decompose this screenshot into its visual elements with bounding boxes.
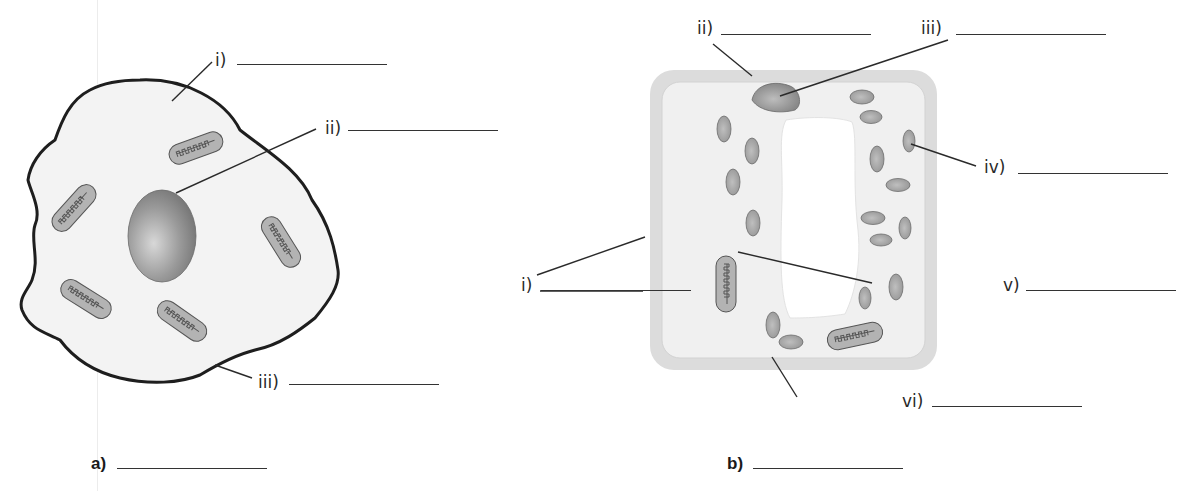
panel-a-caption: a) [91,455,106,472]
panel-a-label-iii: iii) [258,374,279,391]
panel-b-chloroplast-labelled [903,130,915,152]
panel-b-answer-blank-ii[interactable] [721,34,871,35]
panel-b-name-blank[interactable] [753,468,903,469]
panel-b-label-vi: vi) [902,393,923,410]
panel-b-label-iii: iii) [921,20,942,37]
panel-b-caption: b) [727,455,743,472]
panel-b-answer-blank-iv[interactable] [1018,173,1168,174]
panel-a-label-i: i) [215,52,226,69]
panel-a-label-ii: ii) [325,120,341,137]
panel-b-answer-blank-v[interactable] [1026,290,1176,291]
panel-a-cell [21,80,338,382]
panel-b-answer-blank-iii[interactable] [956,34,1106,35]
panel-b-cell [650,70,937,370]
cell-diagram-worksheet: i) ii) iii) a) ii) iii) iv) i) v) vi) b) [0,0,1196,491]
panel-b-label-i: i) [521,277,532,294]
panel-b-answer-blank-vi[interactable] [932,406,1082,407]
panel-a-answer-blank-i[interactable] [237,64,387,65]
panel-a-name-blank[interactable] [117,468,267,469]
panel-b-label-ii: ii) [697,20,713,37]
panel-a-answer-blank-iii[interactable] [289,384,439,385]
panel-a-nucleus [128,190,196,282]
panel-b-label-iv: iv) [984,159,1005,176]
panel-a-answer-blank-ii[interactable] [348,130,498,131]
panel-b-mitochondrion [716,256,736,312]
diagram-canvas [0,0,1196,491]
panel-b-vacuole [781,118,859,318]
panel-b-label-v: v) [1003,277,1020,294]
panel-b-answer-blank-i[interactable] [541,290,691,291]
